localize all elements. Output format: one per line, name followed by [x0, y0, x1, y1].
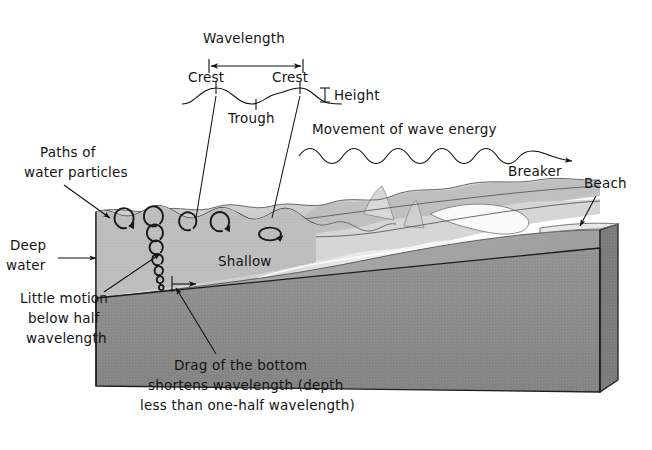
label-little-line2: below half	[28, 310, 101, 326]
label-paths-line1: Paths of	[40, 144, 97, 160]
wave-diagram-root: Shallow Wavelength Crest Crest Trough He…	[0, 0, 652, 450]
label-crest-left: Crest	[188, 69, 224, 85]
wave-diagram-svg: Shallow Wavelength Crest Crest Trough He…	[0, 0, 652, 450]
label-deep-line2: water	[6, 257, 46, 273]
label-drag-line3: less than one-half wavelength)	[140, 397, 355, 413]
label-paths-line2: water particles	[24, 164, 128, 180]
label-little-line1: Little motion	[20, 290, 108, 306]
label-deep-line1: Deep	[10, 237, 46, 253]
label-drag-line1: Drag of the bottom	[174, 357, 307, 373]
label-beach: Beach	[584, 175, 627, 191]
label-movement: Movement of wave energy	[312, 121, 497, 137]
label-trough: Trough	[227, 110, 275, 126]
label-little-line3: wavelength	[26, 330, 107, 346]
label-crest-right: Crest	[272, 69, 308, 85]
label-height: Height	[334, 87, 380, 103]
label-shallow: Shallow	[218, 253, 272, 269]
label-wavelength: Wavelength	[203, 30, 285, 46]
callout-breaker: Breaker	[508, 163, 562, 179]
label-drag-line2: shortens wavelength (depth	[148, 377, 344, 393]
label-breaker: Breaker	[508, 163, 562, 179]
block-right-texture	[600, 224, 618, 392]
